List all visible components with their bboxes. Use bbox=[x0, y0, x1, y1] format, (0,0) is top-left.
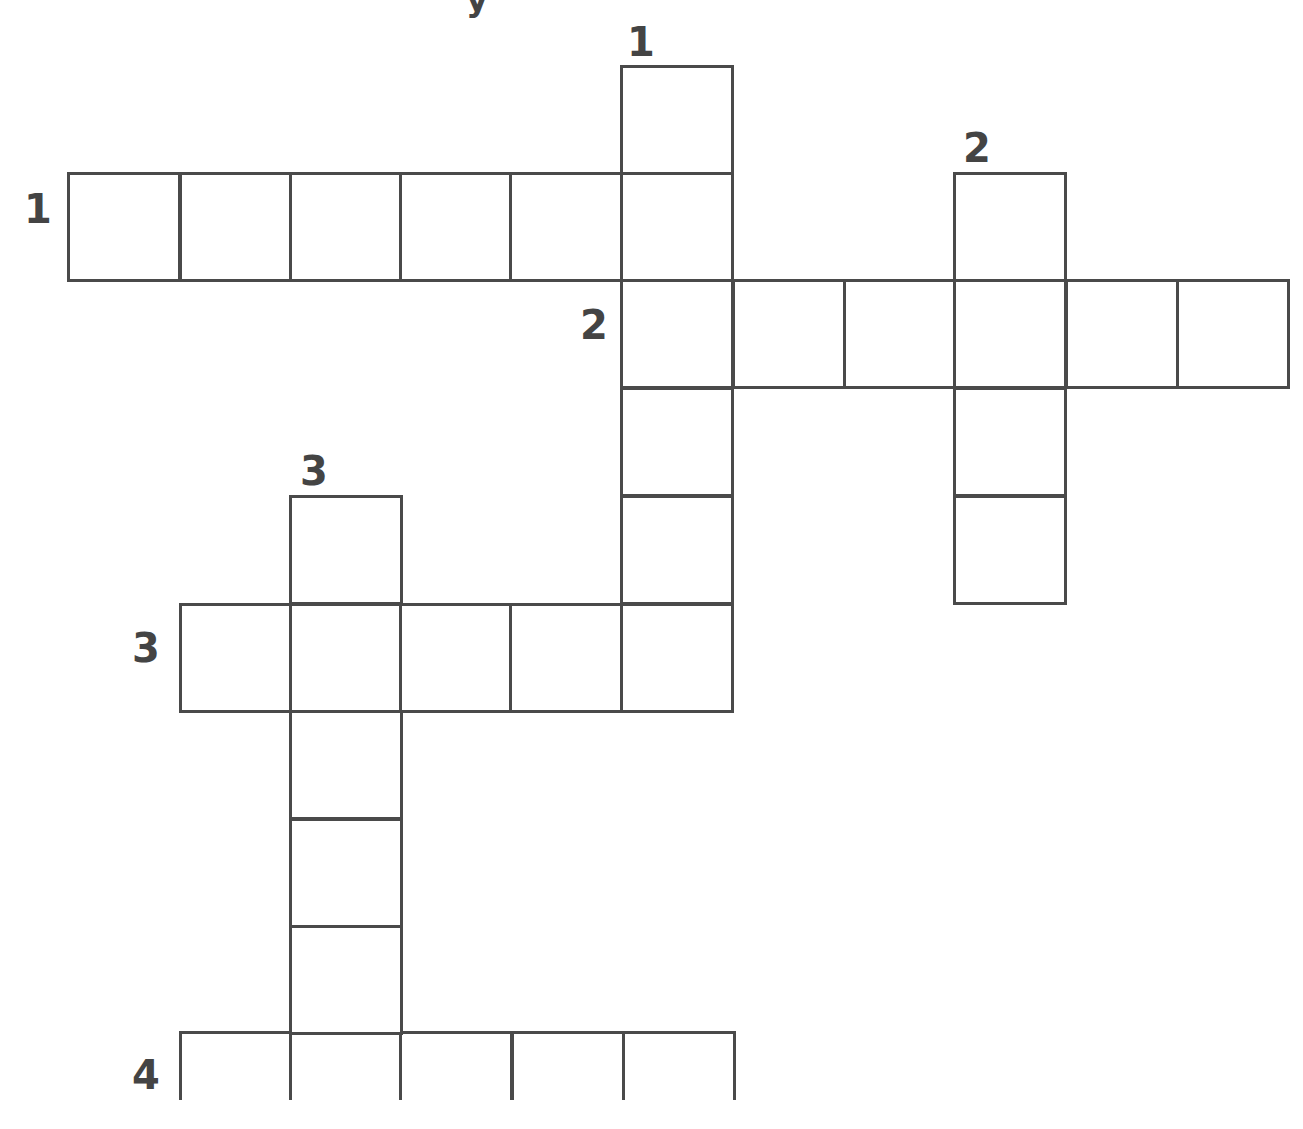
grid-cell-across-2-3[interactable] bbox=[843, 279, 957, 389]
grid-cell-across-1-4[interactable] bbox=[399, 172, 513, 282]
clue-number-across-2: 2 bbox=[580, 305, 608, 345]
grid-cell-across-2-1[interactable] bbox=[620, 279, 734, 389]
grid-cell-down-2-1[interactable] bbox=[953, 172, 1067, 282]
grid-cell-across-4-1[interactable] bbox=[179, 1031, 293, 1100]
grid-cell-across-1-6[interactable] bbox=[620, 172, 734, 282]
grid-cell-across-4-4[interactable] bbox=[511, 1031, 625, 1100]
grid-cell-down-2-3[interactable] bbox=[953, 387, 1067, 497]
grid-cell-across-1-1[interactable] bbox=[67, 172, 181, 282]
crossword-puzzle: y 1234123 bbox=[0, 0, 1303, 1129]
clue-number-down-1: 1 bbox=[627, 22, 655, 62]
crossword-grid bbox=[0, 0, 1303, 1100]
grid-cell-down-1-1[interactable] bbox=[620, 65, 734, 175]
grid-cell-down-1-4[interactable] bbox=[620, 387, 734, 497]
clue-number-down-2: 2 bbox=[963, 128, 991, 168]
grid-cell-across-1-3[interactable] bbox=[289, 172, 403, 282]
grid-cell-across-3-5[interactable] bbox=[620, 603, 734, 713]
grid-cell-across-1-5[interactable] bbox=[509, 172, 623, 282]
grid-cell-across-3-3[interactable] bbox=[399, 603, 513, 713]
grid-cell-down-2-4[interactable] bbox=[953, 495, 1067, 605]
grid-cell-across-1-2[interactable] bbox=[179, 172, 293, 282]
grid-cell-across-2-2[interactable] bbox=[732, 279, 846, 389]
grid-cell-across-2-4[interactable] bbox=[953, 279, 1067, 389]
clue-number-across-4: 4 bbox=[132, 1055, 160, 1095]
grid-cell-across-4-5[interactable] bbox=[622, 1031, 736, 1100]
grid-cell-down-1-5[interactable] bbox=[620, 495, 734, 605]
grid-cell-across-2-5[interactable] bbox=[1065, 279, 1179, 389]
grid-cell-down-3-5[interactable] bbox=[289, 925, 403, 1035]
grid-cell-across-3-1[interactable] bbox=[179, 603, 293, 713]
grid-cell-down-3-1[interactable] bbox=[289, 495, 403, 605]
grid-cell-down-3-3[interactable] bbox=[289, 710, 403, 820]
grid-cell-across-4-2[interactable] bbox=[289, 1031, 403, 1100]
grid-cell-down-3-4[interactable] bbox=[289, 818, 403, 928]
clue-number-down-3: 3 bbox=[300, 451, 328, 491]
grid-cell-across-3-4[interactable] bbox=[509, 603, 623, 713]
grid-cell-across-2-6[interactable] bbox=[1176, 279, 1290, 389]
clue-number-across-3: 3 bbox=[132, 628, 160, 668]
grid-cell-across-4-3[interactable] bbox=[399, 1031, 513, 1100]
grid-cell-across-3-2[interactable] bbox=[289, 603, 403, 713]
clue-number-across-1: 1 bbox=[24, 189, 52, 229]
